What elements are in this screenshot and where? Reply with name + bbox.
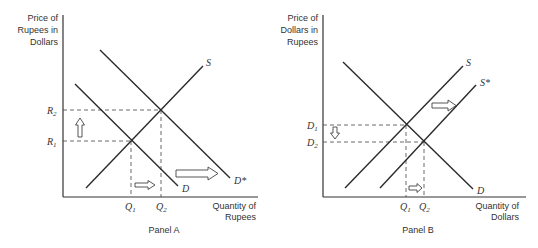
panel-b-y-label-line2: Dollars in bbox=[280, 25, 318, 35]
panel-b-quantity-label-q2: Q2 bbox=[419, 201, 430, 214]
panel-a-price-label-r1: R1 bbox=[46, 136, 57, 149]
panel-a-demand-shift-arrow-icon bbox=[176, 167, 218, 180]
panel-b-x-label-line2: Dollars bbox=[491, 212, 520, 222]
panel-a-demand-curve bbox=[75, 84, 178, 186]
panel-a-y-label-line3: Dollars bbox=[30, 37, 59, 47]
panel-a-caption: Panel A bbox=[148, 225, 179, 235]
panel-b-x-label-line1: Quantity of bbox=[475, 201, 519, 211]
panel-b-supply-curve bbox=[345, 66, 463, 188]
panel-b-quantity-right-arrow-icon bbox=[409, 184, 422, 193]
panel-b-caption: Panel B bbox=[402, 225, 434, 235]
panel-a-price-label-r2: R2 bbox=[46, 105, 57, 118]
panel-a-quantity-right-arrow-icon bbox=[135, 181, 155, 190]
panel-b-demand-label: D bbox=[476, 185, 485, 196]
panel-b-y-label-line1: Price of bbox=[287, 13, 318, 23]
panel-b-supply-shifted-label: S* bbox=[480, 77, 490, 88]
panel-b-price-down-arrow-icon bbox=[331, 127, 340, 139]
panel-a-supply-label: S bbox=[206, 57, 211, 68]
panel-b-y-label-line3: Rupees bbox=[287, 37, 319, 47]
panel-a-demand-label: D bbox=[181, 183, 190, 194]
panel-a-price-up-arrow-icon bbox=[76, 118, 85, 137]
panel-b: Price of Dollars in Rupees S S* D D1 D2 … bbox=[280, 13, 526, 235]
panel-a-y-label-line2: Rupees in bbox=[17, 25, 58, 35]
panel-a-quantity-label-q2: Q2 bbox=[156, 201, 167, 214]
panel-a-demand-shifted-label: D* bbox=[233, 175, 246, 186]
panel-a-x-label-line1: Quantity of bbox=[212, 201, 256, 211]
panel-b-quantity-label-q1: Q1 bbox=[400, 201, 411, 214]
panel-a-demand-shifted-curve bbox=[100, 50, 230, 178]
panel-a-x-label-line2: Rupees bbox=[225, 212, 257, 222]
panel-b-supply-label: S bbox=[466, 57, 471, 68]
panel-a-y-label-line1: Price of bbox=[27, 13, 58, 23]
panel-a: Price of Rupees in Dollars S D D* R2 R1 … bbox=[17, 13, 258, 235]
panel-b-price-label-d1: D1 bbox=[306, 120, 318, 133]
panel-a-quantity-label-q1: Q1 bbox=[125, 201, 136, 214]
panel-b-price-label-d2: D2 bbox=[306, 137, 318, 150]
exchange-rate-diagram: Price of Rupees in Dollars S D D* R2 R1 … bbox=[0, 0, 538, 248]
